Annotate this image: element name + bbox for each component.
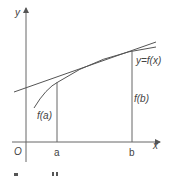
- secant-diagram: y x O a b f(a) f(b) y=f(x): [0, 0, 170, 176]
- origin-label: O: [14, 146, 22, 157]
- fb-label: f(b): [134, 93, 149, 104]
- cutoff-fragment: [14, 173, 18, 176]
- cutoff-fragment: [56, 172, 58, 176]
- y-axis-label: y: [14, 7, 21, 18]
- a-label: a: [54, 147, 60, 158]
- secant-line: [14, 42, 156, 92]
- x-axis-label: x: [152, 140, 159, 151]
- curve-label: y=f(x): [135, 55, 161, 66]
- b-label: b: [129, 147, 135, 158]
- fa-label: f(a): [37, 110, 52, 121]
- cutoff-fragment: [52, 172, 54, 176]
